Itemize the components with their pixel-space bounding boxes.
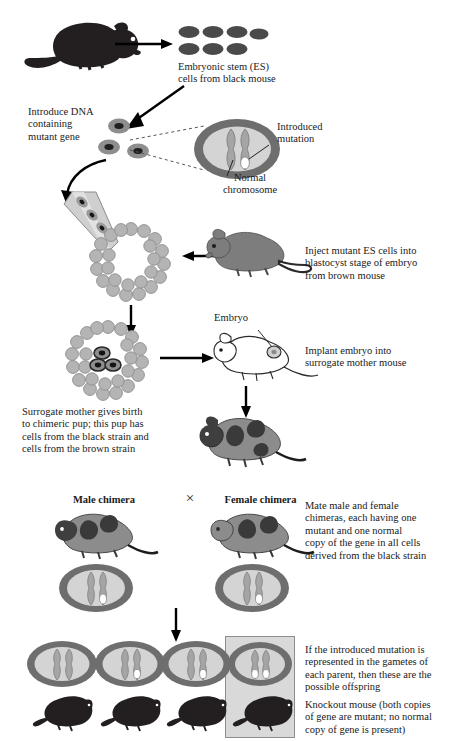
knockout-note: Knockout mouse (both copies of gene are … [305, 699, 460, 736]
offspring-3-cell [160, 640, 232, 688]
normal-chromosome-label: Normal chromosome [200, 172, 300, 197]
male-chimera-mouse [52, 508, 160, 560]
brown-mouse [205, 224, 310, 280]
arrow-to-surrogate [160, 352, 214, 364]
chimeric-pup [198, 412, 308, 470]
offspring-2-mouse [100, 692, 162, 732]
blastocyst-with-es-cells [62, 320, 154, 402]
offspring-4-cell [226, 640, 294, 688]
magnified-cell [193, 118, 281, 180]
offspring-1-mouse [32, 692, 94, 732]
female-chimera-cell [214, 563, 290, 613]
es-cell-cluster [178, 24, 268, 58]
mate-note: Mate male and female chimeras, each havi… [305, 500, 457, 562]
birth-label: Surrogate mother gives birth to chimeric… [22, 406, 202, 456]
arrow-cross-to-offspring [170, 608, 182, 642]
blastocyst-injection [88, 222, 174, 304]
diagram-canvas: Embryonic stem (ES) cells from black mou… [0, 0, 465, 741]
offspring-4-mouse-knockout [232, 692, 294, 732]
arrow-mouse-to-es [115, 38, 173, 50]
female-chimera-mouse [208, 508, 316, 560]
es-cells-label: Embryonic stem (ES) cells from black mou… [178, 61, 318, 86]
implant-label: Implant embryo into surrogate mother mou… [305, 345, 455, 370]
inject-label: Inject mutant ES cells into blastocyst s… [305, 245, 455, 282]
introduced-mutation-label: Introduced mutation [277, 121, 372, 146]
offspring-3-mouse [166, 692, 228, 732]
offspring-1-cell [26, 640, 98, 688]
male-chimera-label: Male chimera [44, 494, 164, 506]
offspring-note: If the introduced mutation is represente… [305, 644, 460, 694]
offspring-2-cell [94, 640, 166, 688]
male-chimera-cell [58, 563, 134, 613]
surrogate-mother-mouse [212, 326, 320, 388]
embryo-label: Embryo [196, 312, 266, 324]
